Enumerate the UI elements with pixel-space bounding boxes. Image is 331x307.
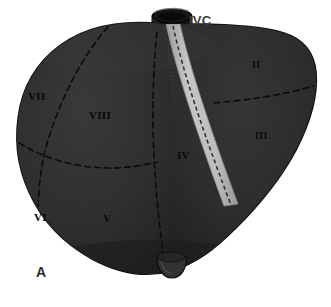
liver-segments-figure: IVC II III IV V VI VII VIII A [0,0,331,307]
liver-illustration [0,0,331,307]
gallbladder [157,252,186,278]
